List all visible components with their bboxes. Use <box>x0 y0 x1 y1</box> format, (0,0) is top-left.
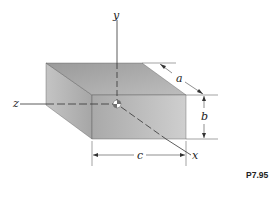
y-axis-label: y <box>112 9 120 22</box>
z-axis-label: z <box>12 97 19 110</box>
front-face <box>92 95 186 139</box>
dim-c-label: c <box>137 149 143 162</box>
arrowhead-icon <box>202 96 206 101</box>
arrowhead-icon <box>93 153 98 157</box>
arrowhead-icon <box>160 64 166 69</box>
problem-label: P7.95 <box>246 170 268 180</box>
dim-b-label: b <box>201 110 208 123</box>
dim-a-label: a <box>176 72 183 85</box>
arrowhead-icon <box>202 133 206 138</box>
prism-diagram: a b c y z x <box>0 0 270 199</box>
x-axis-label: x <box>192 149 199 162</box>
arrowhead-icon <box>197 89 203 94</box>
arrowhead-icon <box>180 153 185 157</box>
x-axis <box>166 139 191 155</box>
centroid-icon <box>113 100 121 108</box>
